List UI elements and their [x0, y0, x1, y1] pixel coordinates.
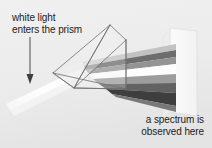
spectrum-label-line2: observed here: [141, 126, 204, 138]
white-light-label-line1: white light: [12, 12, 82, 24]
prism-dispersion-figure: white light enters the prism a spectrum …: [0, 0, 212, 148]
spectrum-label-line1: a spectrum is: [141, 114, 204, 126]
white-light-label: white light enters the prism: [12, 12, 82, 35]
white-light-label-line2: enters the prism: [12, 24, 82, 36]
spectrum-label: a spectrum is observed here: [141, 114, 204, 137]
